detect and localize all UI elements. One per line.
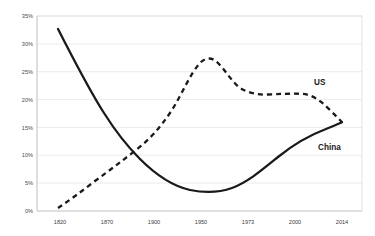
series-label-us: US <box>314 78 326 87</box>
x-tick-label-1973: 1973 <box>242 219 254 225</box>
y-tick-label-20: 20% <box>22 97 33 103</box>
y-tick-label-30: 30% <box>22 41 33 47</box>
y-tick-label-35: 35% <box>22 13 33 19</box>
y-tick-label-5: 5% <box>25 180 33 186</box>
x-tick-label-1900: 1900 <box>148 219 160 225</box>
line-chart: 35% 30% 25% 20% 15% 10% 5% 0% 1820 1870 … <box>0 0 375 236</box>
x-tick-label-1820: 1820 <box>54 219 66 225</box>
x-tick-label-1950: 1950 <box>195 219 207 225</box>
x-tick-label-1870: 1870 <box>101 219 113 225</box>
x-tick-label-2000: 2000 <box>289 219 301 225</box>
chart-canvas: 35% 30% 25% 20% 15% 10% 5% 0% 1820 1870 … <box>0 0 375 236</box>
y-tick-label-0: 0% <box>25 208 33 214</box>
y-tick-label-10: 10% <box>22 152 33 158</box>
x-tick-label-2014: 2014 <box>336 219 348 225</box>
series-label-china: China <box>318 143 341 152</box>
y-tick-label-25: 25% <box>22 69 33 75</box>
y-tick-label-15: 15% <box>22 125 33 131</box>
chart-background <box>0 0 375 236</box>
